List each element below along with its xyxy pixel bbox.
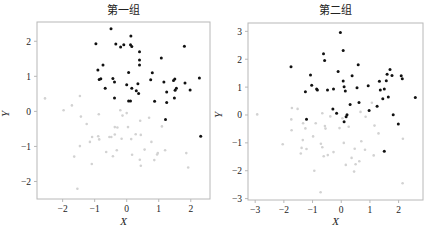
light-data-point xyxy=(116,149,119,152)
x-axis-label: X xyxy=(331,215,340,227)
dark-data-point xyxy=(138,64,141,67)
light-data-point xyxy=(281,143,284,146)
y-axis-label: Y xyxy=(0,109,11,117)
light-data-point xyxy=(290,118,293,121)
light-data-point xyxy=(79,145,82,148)
light-data-point xyxy=(143,148,146,151)
dark-data-point xyxy=(349,103,352,106)
dark-data-point xyxy=(305,118,308,121)
light-data-point xyxy=(79,95,82,98)
dark-data-point xyxy=(397,122,400,125)
light-data-point xyxy=(358,160,361,163)
x-tick-label: 0 xyxy=(339,205,344,215)
x-tick-label: 2 xyxy=(396,205,401,215)
dark-data-point xyxy=(290,65,293,68)
light-data-point xyxy=(110,136,113,139)
dark-data-point xyxy=(189,89,192,92)
light-data-point xyxy=(302,139,305,142)
light-data-point xyxy=(401,182,404,185)
dark-data-point xyxy=(165,101,168,104)
y-tick-label: 1 xyxy=(237,83,242,93)
light-data-point xyxy=(314,122,317,125)
light-data-point xyxy=(98,138,101,141)
dark-data-point xyxy=(174,89,177,92)
dark-data-point xyxy=(138,58,141,61)
light-data-point xyxy=(377,132,380,135)
dark-data-point xyxy=(322,52,325,55)
light-data-point xyxy=(76,188,79,191)
light-data-point xyxy=(402,137,405,140)
dark-data-point xyxy=(383,88,386,91)
dark-data-point xyxy=(357,63,360,66)
light-data-point xyxy=(300,152,303,155)
light-data-point xyxy=(44,97,47,100)
dark-data-point xyxy=(172,79,175,82)
dark-data-point xyxy=(367,84,370,87)
light-data-point xyxy=(148,116,151,119)
dark-data-point xyxy=(310,84,313,87)
light-data-point xyxy=(332,151,335,154)
light-data-point xyxy=(139,158,142,161)
scatter-panel-group-2: 第二组 −3−2−1012−3−2−10123 X Y xyxy=(212,3,423,227)
dark-data-point xyxy=(162,80,165,83)
light-data-point xyxy=(305,148,308,151)
dark-data-point xyxy=(94,42,97,45)
light-data-point xyxy=(153,159,156,162)
light-data-point xyxy=(329,115,332,118)
light-data-point xyxy=(350,157,353,160)
light-data-point xyxy=(345,164,348,167)
x-axis-label: X xyxy=(119,215,128,227)
dark-data-point xyxy=(127,71,130,74)
light-data-point xyxy=(347,125,350,128)
x-tick-label: 1 xyxy=(156,204,161,214)
y-tick-label: 2 xyxy=(26,37,31,47)
dark-data-point xyxy=(378,80,381,83)
x-tick-label: −2 xyxy=(58,204,68,214)
dark-data-point xyxy=(113,97,116,100)
light-data-point xyxy=(321,112,324,115)
light-data-point xyxy=(313,169,316,172)
light-data-point xyxy=(327,154,330,157)
light-data-point xyxy=(341,117,344,120)
y-tick-label: 0 xyxy=(26,107,31,117)
scatter-panel-group-1: 第一组 −2−1012−2−1012 X Y xyxy=(0,3,210,227)
y-tick-label: −2 xyxy=(232,166,242,176)
dark-data-point xyxy=(138,50,141,53)
light-data-point xyxy=(62,109,65,112)
x-tick-label: 1 xyxy=(368,205,373,215)
light-data-point xyxy=(364,115,367,118)
y-tick-label: −1 xyxy=(232,138,242,148)
light-data-point xyxy=(140,134,143,137)
dark-data-point xyxy=(119,45,122,48)
light-data-point xyxy=(73,155,76,158)
dark-data-point xyxy=(164,118,167,121)
dark-data-point xyxy=(351,74,354,77)
light-data-point xyxy=(319,191,322,194)
dark-data-point xyxy=(153,100,156,103)
y-tick-label: −1 xyxy=(21,142,31,152)
light-data-point xyxy=(121,114,124,117)
y-tick-label: −2 xyxy=(21,177,31,187)
light-data-point xyxy=(164,149,167,152)
light-data-point xyxy=(161,125,164,128)
dark-data-point xyxy=(400,74,403,77)
light-data-point xyxy=(338,127,341,130)
light-data-point xyxy=(127,126,130,129)
dark-data-point xyxy=(125,83,128,86)
light-data-point xyxy=(91,136,94,139)
dark-data-point xyxy=(383,150,386,153)
light-data-point xyxy=(302,122,305,125)
light-data-point xyxy=(134,133,137,136)
dark-data-point xyxy=(326,88,329,91)
x-tick-label: −1 xyxy=(307,205,317,215)
dark-data-point xyxy=(391,74,394,77)
light-data-point xyxy=(112,155,115,158)
light-data-point xyxy=(343,142,346,145)
light-data-point xyxy=(371,101,374,104)
light-data-point xyxy=(290,129,293,132)
light-data-point xyxy=(359,111,362,114)
dark-data-point xyxy=(386,73,389,76)
light-data-point xyxy=(114,133,117,136)
dark-data-point xyxy=(316,88,319,91)
light-data-point xyxy=(116,126,119,129)
